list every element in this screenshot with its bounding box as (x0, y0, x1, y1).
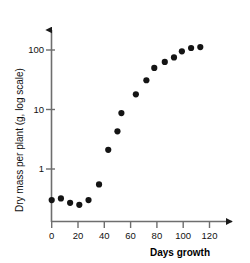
data-point (133, 91, 139, 97)
y-axis (46, 30, 55, 222)
data-point (85, 197, 91, 203)
data-point (197, 44, 203, 50)
x-tick-label: 40 (99, 231, 110, 241)
data-point (114, 128, 120, 134)
x-tick-label: 100 (175, 231, 191, 241)
x-axis-title: Days growth (150, 247, 210, 258)
data-point (162, 59, 168, 65)
data-point (151, 65, 157, 71)
x-tick-label: 120 (202, 231, 218, 241)
x-tick-label: 80 (152, 231, 163, 241)
data-point (49, 197, 55, 203)
data-point (76, 202, 82, 208)
data-point (143, 77, 149, 83)
data-point (171, 54, 177, 60)
data-point (105, 147, 111, 153)
data-point-series (49, 44, 204, 208)
data-point (118, 110, 124, 116)
x-tick-label: 0 (49, 231, 54, 241)
data-point (58, 195, 64, 201)
data-point (179, 48, 185, 54)
chart-canvas (0, 0, 250, 263)
x-tick-label: 20 (73, 231, 84, 241)
data-point (188, 45, 194, 51)
data-point (96, 181, 102, 187)
data-point (67, 200, 73, 206)
y-tick-label: 100 (8, 45, 44, 55)
x-tick-label: 60 (125, 231, 136, 241)
x-axis (52, 222, 233, 229)
y-axis-title: Dry mass per plant (g, log scale) (14, 68, 25, 212)
growth-scatter-chart: 110100 020406080100120 Dry mass per plan… (0, 0, 250, 263)
